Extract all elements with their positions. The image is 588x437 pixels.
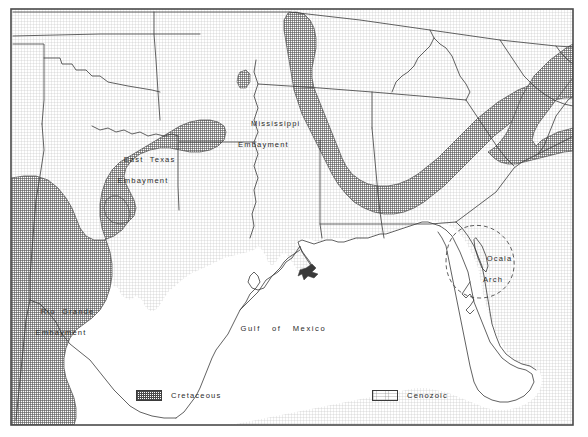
map-legend: Cretaceous Cenozoic [10, 386, 574, 416]
legend-item-cretaceous: Cretaceous [136, 390, 221, 401]
legend-swatch-cretaceous [136, 390, 162, 401]
legend-label-cretaceous: Cretaceous [171, 391, 221, 400]
map-canvas [0, 0, 588, 437]
legend-label-cenozoic: Cenozoic [407, 391, 448, 400]
legend-item-cenozoic: Cenozoic [372, 390, 448, 401]
geologic-map-figure: East Texas Embayment Mississippi Embayme… [0, 0, 588, 437]
legend-swatch-cenozoic [372, 390, 398, 401]
